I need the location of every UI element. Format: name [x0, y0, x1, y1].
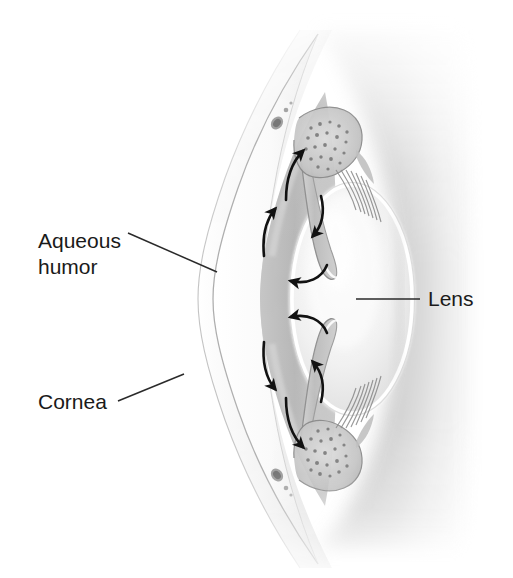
label-aqueous-humor-line2: humor — [38, 255, 98, 278]
label-lens: Lens — [428, 287, 474, 310]
eye-anatomy-diagram: Aqueous humor Cornea Lens — [0, 0, 513, 578]
label-aqueous-humor-line1: Aqueous — [38, 229, 121, 252]
label-cornea: Cornea — [38, 390, 107, 413]
